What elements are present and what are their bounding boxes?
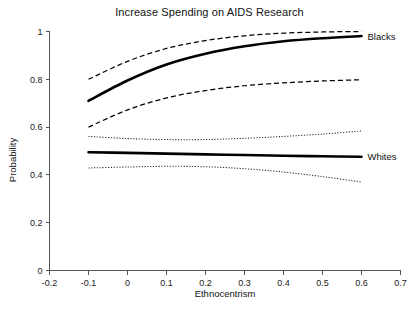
- y-tick-label: 0: [37, 266, 42, 276]
- series-label-whites: Whites: [368, 151, 397, 162]
- curve-blacks: [89, 36, 362, 101]
- x-tick-label: 0.4: [277, 278, 290, 288]
- y-tick-label: 0.2: [30, 218, 43, 228]
- x-tick-label: 0.1: [160, 278, 173, 288]
- series-curves: [89, 32, 362, 183]
- x-axis-ticks: -0.2-0.100.10.20.30.40.50.60.7: [42, 271, 407, 288]
- chart-page: Increase Spending on AIDS Research 00.20…: [0, 0, 419, 313]
- series-annotations: BlacksWhites: [368, 31, 397, 162]
- curve-blacks-lower-ci: [89, 80, 362, 127]
- x-axis-title: Ethnocentrism: [195, 288, 256, 299]
- x-tick-label: 0.5: [316, 278, 329, 288]
- x-tick-label: 0.6: [355, 278, 368, 288]
- axes-group: [50, 32, 401, 271]
- x-tick-label: -0.2: [42, 278, 58, 288]
- curve-whites-upper-ci: [89, 131, 362, 140]
- x-tick-label: -0.1: [81, 278, 97, 288]
- y-tick-label: 0.8: [30, 75, 43, 85]
- curve-whites-lower-ci: [89, 166, 362, 182]
- y-tick-label: 1: [37, 27, 42, 37]
- series-label-blacks: Blacks: [368, 31, 396, 42]
- y-axis-ticks: 00.20.40.60.81: [30, 27, 50, 276]
- curve-whites: [89, 152, 362, 157]
- x-tick-label: 0: [125, 278, 130, 288]
- y-tick-label: 0.4: [30, 170, 43, 180]
- y-axis-title: Probability: [7, 138, 18, 183]
- x-tick-label: 0.3: [238, 278, 251, 288]
- chart-plot: 00.20.40.60.81 -0.2-0.100.10.20.30.40.50…: [0, 0, 419, 313]
- y-tick-label: 0.6: [30, 122, 43, 132]
- x-tick-label: 0.7: [394, 278, 407, 288]
- x-tick-label: 0.2: [199, 278, 212, 288]
